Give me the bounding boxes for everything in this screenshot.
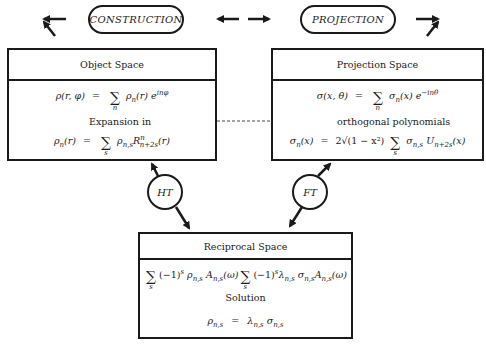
construction-label: CONSTRUCTION	[90, 14, 183, 25]
solution-label: Solution	[140, 292, 351, 303]
projection-pill: PROJECTION	[300, 5, 396, 34]
construction-out-arrow-icon	[44, 19, 66, 36]
reciprocal-space-header: Reciprocal Space	[140, 234, 351, 260]
fourier-transform-node: FT	[292, 174, 328, 210]
solution-equation: ρn,s = λn,s σn,s	[140, 315, 351, 329]
projection-space-box: Projection Space σ(x, θ) = ∑n σn(x) e−in…	[271, 48, 484, 161]
reciprocal-space-box: Reciprocal Space ∑s(−1)s ρn,s An,s(ω) ∑s…	[138, 232, 353, 339]
object-space-eq1: ρ(r, φ) = ∑n ρn(r) einφ	[9, 89, 215, 105]
projection-space-header: Projection Space	[273, 50, 482, 81]
projection-space-eq1: σ(x, θ) = ∑n σn(x) e−inθ	[273, 89, 482, 105]
reciprocal-left-expression: ∑s(−1)s ρn,s An,s(ω)	[146, 268, 238, 284]
reciprocal-space-title: Reciprocal Space	[204, 241, 288, 252]
expansion-label: Expansion in	[89, 116, 151, 127]
hankel-transform-node: HT	[147, 174, 183, 210]
projection-space-eq2: σn(x) = 2√(1 − x²) ∑s σn,s Un+2s(x)	[273, 134, 482, 150]
object-space-eq2: ρn(r) = ∑s ρn,sRnn+2s(r)	[9, 134, 215, 150]
projection-space-title: Projection Space	[337, 59, 418, 70]
ft-label: FT	[303, 187, 317, 198]
reciprocal-right-expression: ∑s(−1)sλn,s σn,sAn,s(ω)	[240, 268, 347, 284]
projection-out-arrow-icon	[416, 19, 438, 36]
projection-label: PROJECTION	[312, 14, 384, 25]
object-space-title: Object Space	[80, 59, 144, 70]
construction-pill: CONSTRUCTION	[88, 5, 184, 34]
polynomials-label: orthogonal polynomials	[337, 116, 450, 127]
ht-label: HT	[157, 187, 172, 198]
object-space-box: Object Space ρ(r, φ) = ∑n ρn(r) einφ Exp…	[7, 48, 217, 161]
object-space-header: Object Space	[9, 50, 215, 81]
